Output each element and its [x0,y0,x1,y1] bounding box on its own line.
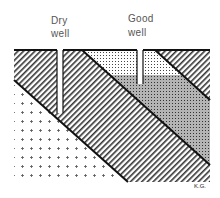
good-well-label-line2: well [128,27,146,39]
aquifer-cross-section [0,0,220,198]
dry-well-shaft [57,46,63,113]
artist-signature: K.G. [194,183,206,189]
dry-well-label-line2: well [51,28,69,40]
good-well-shaft [137,46,143,84]
good-well-label-line1: Good [128,13,154,25]
dry-well-label-line1: Dry [51,15,67,27]
